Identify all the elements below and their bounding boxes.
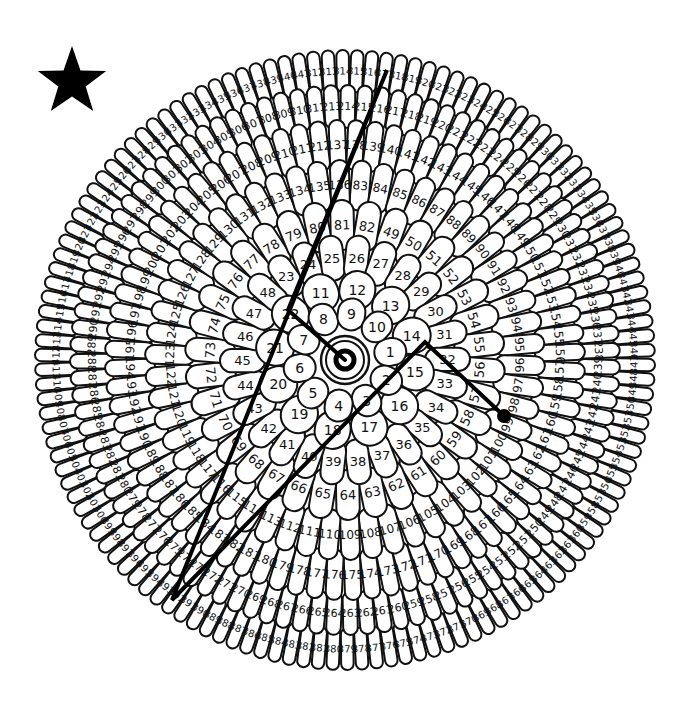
petal-number: 47 xyxy=(246,306,263,321)
petal-number: 95 xyxy=(512,336,527,352)
petal-number: 65 xyxy=(314,484,333,502)
puzzle-board[interactable]: 3123133143153163173183193203213223233243… xyxy=(0,0,689,720)
petal-number: 8 xyxy=(319,311,328,327)
petal-number: 82 xyxy=(358,218,377,236)
petal-number: 5 xyxy=(309,385,318,401)
petal-number: 55 xyxy=(471,336,488,354)
petal-number: 35 xyxy=(414,420,431,435)
petal-number: 28 xyxy=(394,268,411,283)
petal-number: 17 xyxy=(360,419,378,435)
petal-number: 38 xyxy=(350,454,367,469)
petal-number: 13 xyxy=(382,298,400,314)
petal-number: 97 xyxy=(510,377,526,394)
petal-number: 30 xyxy=(427,304,444,319)
petal-number: 29 xyxy=(413,284,430,299)
petal-number: 81 xyxy=(334,217,351,232)
petal-number: 109 xyxy=(338,528,361,543)
petal-number: 27 xyxy=(372,256,389,271)
petal-number: 16 xyxy=(390,398,408,414)
petal-number: 44 xyxy=(237,378,254,393)
star-icon xyxy=(38,46,106,111)
petal-number: 15 xyxy=(406,364,424,380)
petal-number: 42 xyxy=(260,421,277,436)
petal-number: 48 xyxy=(260,285,277,300)
petal-number: 6 xyxy=(295,360,304,376)
petal-number: 9 xyxy=(347,306,356,322)
petal-number: 311 xyxy=(305,101,327,116)
petal-number: 73 xyxy=(202,342,218,360)
petal-number: 14 xyxy=(403,328,421,344)
petal-number: 83 xyxy=(352,178,368,193)
petal-number: 23 xyxy=(278,269,295,284)
petal-number: 72 xyxy=(203,366,220,384)
petal-number: 12 xyxy=(348,282,366,298)
petal-number: 34 xyxy=(428,400,445,415)
petal-number: 19 xyxy=(290,406,308,422)
petal-number: 11 xyxy=(312,285,330,301)
petal-number: 37 xyxy=(374,448,391,463)
petal-number: 7 xyxy=(299,332,308,348)
petal-number: 56 xyxy=(472,361,488,379)
petal-number: 4 xyxy=(334,398,343,414)
petal-number: 31 xyxy=(436,327,453,342)
petal-number: 33 xyxy=(436,376,453,391)
petal-number: 46 xyxy=(237,329,254,344)
petal-number: 39 xyxy=(325,454,342,469)
petal-number: 36 xyxy=(396,437,413,452)
petal-number: 1 xyxy=(386,344,395,360)
petal-number: 20 xyxy=(269,376,287,392)
petal-number: 96 xyxy=(513,357,527,373)
petal-number: 25 xyxy=(324,251,341,266)
petal-number: 212 xyxy=(308,138,332,155)
petal-number: 26 xyxy=(348,251,365,266)
end-dot[interactable] xyxy=(497,409,511,423)
petal-number: 64 xyxy=(339,487,356,502)
petal-number: 45 xyxy=(234,353,251,368)
petal-number: 10 xyxy=(368,319,386,335)
petal-number: 41 xyxy=(279,437,296,452)
star-icon xyxy=(38,46,106,111)
